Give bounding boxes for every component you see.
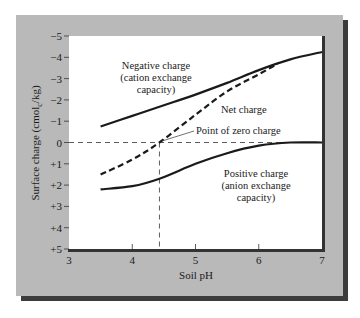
y-axis: −5−4−3−2−10+1+2+3+4+5 (50, 30, 69, 255)
positive-charge-label-line2: (anion exchange (221, 180, 290, 192)
positive-charge-label-line3: capacity) (237, 192, 276, 204)
x-tick-label: 5 (193, 254, 199, 266)
x-tick-label: 7 (319, 254, 325, 266)
y-tick-label: +3 (50, 200, 62, 212)
negative-charge-label-line3: capacity) (137, 84, 176, 96)
negative-charge-label-line1: Negative charge (122, 60, 191, 71)
x-tick-label: 4 (130, 254, 136, 266)
net-charge-label: Net charge (221, 104, 267, 115)
point-of-zero-charge-label: Point of zero charge (196, 125, 281, 136)
x-tick-label: 3 (66, 254, 72, 266)
positive-charge-label-line1: Positive charge (224, 168, 289, 179)
chart-svg: −5−4−3−2−10+1+2+3+4+5 34567 Negative cha… (0, 0, 360, 318)
y-tick-label: −5 (50, 30, 62, 42)
y-tick-label: −3 (50, 73, 62, 85)
y-tick-label: 0 (57, 137, 63, 149)
y-tick-label: +5 (50, 243, 62, 255)
y-axis-title: Surface charge (cmolc/kg) (29, 85, 44, 200)
negative-charge-label-line2: (cation exchange (120, 72, 192, 84)
y-tick-label: −1 (50, 115, 62, 127)
y-tick-label: −4 (50, 51, 62, 63)
y-tick-label: +1 (50, 158, 62, 170)
x-tick-label: 6 (256, 254, 262, 266)
y-tick-label: +4 (50, 222, 62, 234)
x-axis-title: Soil pH (179, 269, 213, 281)
y-tick-label: +2 (50, 179, 62, 191)
y-tick-label: −2 (50, 94, 62, 106)
